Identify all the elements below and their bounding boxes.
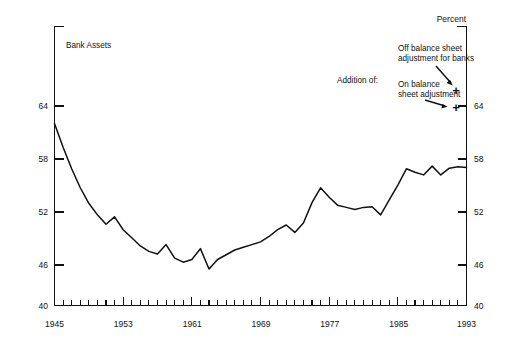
on-balance-sheet-arrow-head: [441, 104, 447, 109]
x-label-1945: 1945: [45, 319, 64, 329]
y-label-left-46: 46: [39, 260, 49, 270]
y-label-right-58: 58: [474, 154, 484, 164]
x-label-1977: 1977: [320, 319, 339, 329]
axes-group: [54, 26, 467, 306]
chart-figure: 64 58 52 46 40 64 58 52 46 40 1945 1953 …: [0, 0, 520, 348]
on-balance-sheet-line1: On balance: [398, 80, 440, 89]
series-line-bank-assets: [55, 123, 467, 268]
y-label-right-40: 40: [474, 301, 484, 311]
y-label-left-40: 40: [39, 301, 49, 311]
y-label-left-52: 52: [39, 207, 49, 217]
y-ticks-right: [458, 106, 467, 265]
y-label-right-52: 52: [474, 207, 484, 217]
on-balance-sheet-line2: sheet adjustment: [398, 90, 461, 99]
x-label-1993: 1993: [457, 319, 476, 329]
x-label-1953: 1953: [114, 319, 133, 329]
series-label-bank-assets: Bank Assets: [66, 41, 111, 50]
addition-of-label: Addition of:: [337, 76, 378, 85]
y-ticks-left: [55, 106, 64, 265]
on-balance-sheet-arrow-shaft: [425, 100, 445, 106]
y-label-left-64: 64: [39, 101, 49, 111]
x-label-1969: 1969: [252, 319, 271, 329]
x-tick-labels: 1945 1953 1961 1969 1977 1985 1993: [45, 319, 476, 329]
x-ticks: [55, 297, 467, 306]
x-label-1961: 1961: [183, 319, 202, 329]
y-tick-labels-right: 64 58 52 46 40: [474, 101, 484, 311]
y-tick-labels-left: 64 58 52 46 40: [39, 101, 49, 311]
on-balance-sheet-plus-marker: +: [452, 100, 460, 115]
y-label-left-58: 58: [39, 154, 49, 164]
off-balance-sheet-line2: adjustment for banks: [398, 54, 474, 63]
y-label-right-46: 46: [474, 260, 484, 270]
unit-label-percent: Percent: [437, 14, 467, 24]
bank-assets-line-chart: 64 58 52 46 40 64 58 52 46 40 1945 1953 …: [0, 0, 520, 348]
off-balance-sheet-line1: Off balance sheet: [398, 44, 463, 53]
x-label-1985: 1985: [389, 319, 408, 329]
y-label-right-64: 64: [474, 101, 484, 111]
